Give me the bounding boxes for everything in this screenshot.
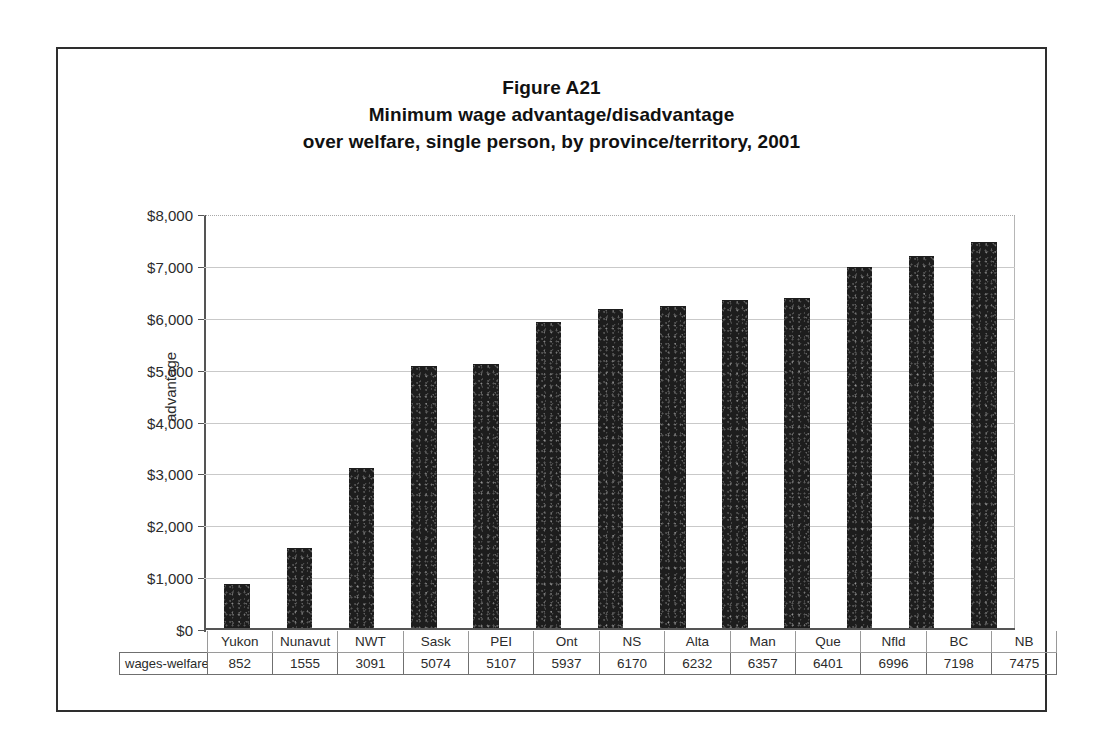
bar-slot (704, 215, 766, 628)
table-header-ns: NS (599, 631, 664, 653)
bar-slot (828, 215, 890, 628)
series-row-label: wages-welfare (120, 653, 208, 675)
table-value-ns: 6170 (599, 653, 664, 675)
data-table: YukonNunavutNWTSaskPEIOntNSAltaManQueNfl… (119, 631, 1057, 675)
y-axis-tick (198, 474, 204, 475)
bar-sask[interactable] (411, 366, 437, 628)
table-header-ont: Ont (534, 631, 599, 653)
bar-slot (642, 215, 704, 628)
table-value-nfld: 6996 (861, 653, 926, 675)
bar-nwt[interactable] (349, 468, 375, 628)
x-axis-line (204, 628, 1015, 630)
table-value-que: 6401 (795, 653, 860, 675)
figure-frame: Figure A21 Minimum wage advantage/disadv… (56, 47, 1047, 712)
table-header-nunavut: Nunavut (272, 631, 337, 653)
y-axis-tick-label: $7,000 (147, 258, 193, 275)
table-value-yukon: 852 (207, 653, 272, 675)
table-header-sask: Sask (403, 631, 468, 653)
y-axis-tick (198, 267, 204, 268)
bar-slot (579, 215, 641, 628)
table-value-ont: 5937 (534, 653, 599, 675)
y-axis-tick-label: $6,000 (147, 310, 193, 327)
bar-slot (268, 215, 330, 628)
table-value-alta: 6232 (665, 653, 730, 675)
bar-slot (206, 215, 268, 628)
bar-slot (330, 215, 392, 628)
bar-slot (953, 215, 1015, 628)
y-axis-tick (198, 319, 204, 320)
category-row-corner (120, 631, 208, 653)
table-header-pei: PEI (469, 631, 534, 653)
title-line-2: Minimum wage advantage/disadvantage (58, 101, 1045, 128)
bar-man[interactable] (722, 300, 748, 628)
bar-pei[interactable] (473, 364, 499, 628)
y-axis-tick-label: $2,000 (147, 518, 193, 535)
y-axis-tick (198, 423, 204, 424)
table-value-pei: 5107 (469, 653, 534, 675)
bar-ont[interactable] (536, 322, 562, 628)
bar-slot (766, 215, 828, 628)
bar-alta[interactable] (660, 306, 686, 628)
bar-que[interactable] (784, 298, 810, 628)
bar-slot (891, 215, 953, 628)
table-value-nwt: 3091 (338, 653, 403, 675)
table-value-bc: 7198 (926, 653, 991, 675)
y-axis-tick (198, 578, 204, 579)
table-value-nb: 7475 (992, 653, 1057, 675)
table-header-alta: Alta (665, 631, 730, 653)
table-value-nunavut: 1555 (272, 653, 337, 675)
plot-area: $8,000$7,000$6,000$5,000$4,000$3,000$2,0… (204, 215, 1015, 630)
chart-title: Figure A21 Minimum wage advantage/disadv… (58, 74, 1045, 155)
table-value-sask: 5074 (403, 653, 468, 675)
y-axis-tick (198, 526, 204, 527)
bar-ns[interactable] (598, 309, 624, 628)
bars-layer (206, 215, 1015, 628)
table-header-man: Man (730, 631, 795, 653)
title-line-3: over welfare, single person, by province… (58, 128, 1045, 155)
bar-slot (393, 215, 455, 628)
bar-nunavut[interactable] (287, 548, 313, 628)
title-line-1: Figure A21 (58, 74, 1045, 101)
y-axis-tick (198, 371, 204, 372)
table-header-que: Que (795, 631, 860, 653)
table-header-nfld: Nfld (861, 631, 926, 653)
table-header-yukon: Yukon (207, 631, 272, 653)
y-axis-tick-label: $4,000 (147, 414, 193, 431)
bar-bc[interactable] (909, 256, 935, 628)
bar-yukon[interactable] (224, 584, 250, 628)
table-row-values: wages-welfare 85215553091507451075937617… (120, 653, 1057, 675)
bar-nfld[interactable] (847, 267, 873, 628)
bar-slot (517, 215, 579, 628)
y-axis-tick-label: $8,000 (147, 207, 193, 224)
y-axis-tick-label: $3,000 (147, 466, 193, 483)
bar-slot (455, 215, 517, 628)
table-header-bc: BC (926, 631, 991, 653)
table-header-nwt: NWT (338, 631, 403, 653)
table-header-nb: NB (992, 631, 1057, 653)
y-axis-tick-label: $1,000 (147, 570, 193, 587)
bar-nb[interactable] (971, 242, 997, 628)
table-value-man: 6357 (730, 653, 795, 675)
y-axis-tick-label: $5,000 (147, 362, 193, 379)
table-row-categories: YukonNunavutNWTSaskPEIOntNSAltaManQueNfl… (120, 631, 1057, 653)
y-axis-tick (198, 215, 204, 216)
